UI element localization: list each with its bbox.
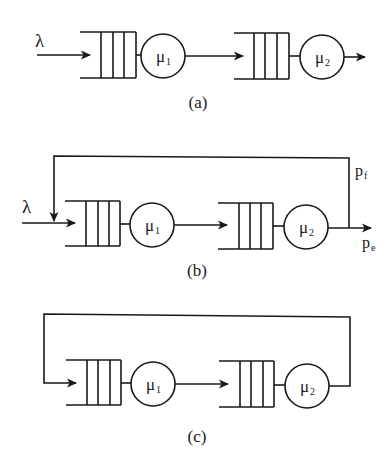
- panel-a: λ μ 1 μ 2: [35, 30, 365, 112]
- service-rate-subscript: 1: [156, 384, 161, 395]
- server-1: μ 1: [130, 203, 174, 247]
- service-rate-subscript: 1: [155, 225, 160, 236]
- server-2: μ 2: [300, 35, 344, 79]
- server-2: μ 2: [285, 364, 329, 408]
- service-rate-label: μ: [299, 218, 308, 237]
- service-rate-subscript: 2: [309, 227, 314, 238]
- server-1: μ 1: [141, 34, 185, 78]
- service-rate-label: μ: [145, 216, 154, 235]
- caption-a: (a): [189, 93, 208, 112]
- server-2: μ 2: [284, 205, 328, 249]
- service-rate-label: μ: [146, 375, 155, 394]
- panel-c: μ 1 μ 2 (c): [44, 314, 350, 446]
- service-rate-subscript: 1: [166, 56, 171, 67]
- panel-b: p f λ μ 1 μ: [22, 156, 376, 280]
- caption-c: (c): [188, 427, 207, 446]
- queueing-network-figure: λ μ 1 μ 2: [0, 0, 392, 466]
- feedback-prob-label: p: [355, 162, 363, 180]
- service-rate-subscript: 2: [310, 386, 315, 397]
- service-rate-subscript: 2: [325, 57, 330, 68]
- arrival-rate-label: λ: [35, 30, 45, 51]
- queue-2: [218, 203, 284, 249]
- exit-prob-label: p: [362, 234, 370, 252]
- caption-b: (b): [187, 261, 207, 280]
- feedback-prob-subscript: f: [364, 170, 368, 181]
- arrival-rate-label: λ: [22, 196, 32, 217]
- service-rate-label: μ: [315, 48, 324, 67]
- server-1: μ 1: [131, 362, 175, 406]
- exit-prob-subscript: e: [371, 242, 376, 253]
- service-rate-label: μ: [300, 377, 309, 396]
- service-rate-label: μ: [156, 47, 165, 66]
- queue-2: [234, 33, 300, 79]
- queue-2: [219, 361, 285, 407]
